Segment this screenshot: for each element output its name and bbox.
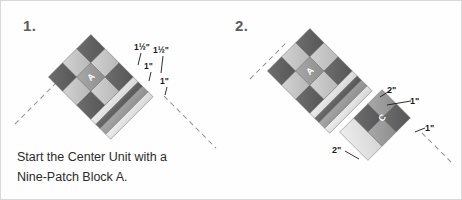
leader-p1-a [138, 53, 141, 65]
dimension-label-p1-b: 1½" [153, 45, 169, 55]
dimension-label-p2-c: 1" [425, 123, 434, 133]
dimension-label-p2-a: 2" [387, 85, 396, 95]
panel-2-artwork: A C 2" 1" 1" 2" [232, 1, 462, 200]
panel-step-1: 1. [1, 1, 232, 200]
dimension-label-p1-d: 1" [160, 76, 169, 86]
leader-p1-b [161, 56, 163, 73]
caption-line-2: Nine-Patch Block A. [17, 167, 217, 187]
diagram-page: 1. [0, 0, 462, 200]
dimension-label-p2-d: 2" [332, 145, 341, 155]
leader-p1-d [165, 87, 167, 95]
leader-p2-d [345, 151, 359, 159]
leader-p1-c [149, 72, 151, 81]
dimension-label-p1-a: 1½" [134, 42, 150, 52]
dimension-label-p1-c: 1" [144, 61, 153, 71]
guide-line-right-2 [422, 133, 454, 165]
leader-p2-c [415, 128, 425, 132]
guide-line-right [164, 96, 216, 148]
instruction-caption: Start the Center Unit with a Nine-Patch … [17, 147, 217, 187]
dimension-label-p2-b: 1" [410, 96, 419, 106]
panel-step-2: 2. A [232, 1, 462, 200]
caption-line-1: Start the Center Unit with a [17, 147, 217, 167]
